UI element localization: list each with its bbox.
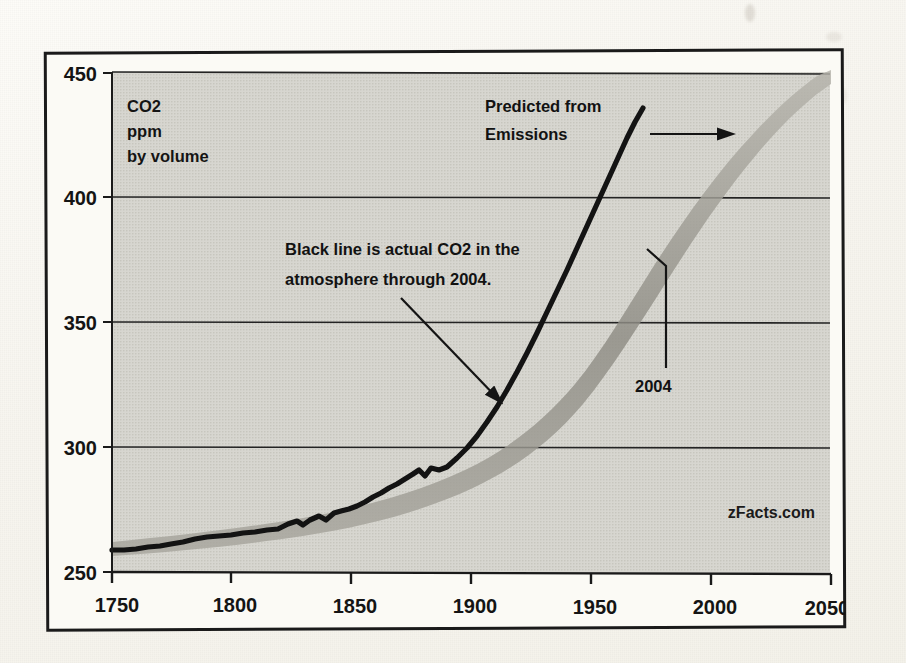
scan-smudge <box>745 4 755 22</box>
x-tick-label: 2050 <box>805 597 845 619</box>
x-tick-labels: 1750 1800 1850 1900 1950 2000 2050 <box>95 594 845 619</box>
y-tick-label: 400 <box>64 187 97 209</box>
x-tick-label: 1800 <box>213 594 258 616</box>
co2-chart-figure: 450 400 350 300 250 1750 1800 1850 1900 … <box>45 50 845 630</box>
axis-title-line: ppm <box>127 122 162 140</box>
chart-canvas: 450 400 350 300 250 1750 1800 1850 1900 … <box>45 50 845 630</box>
y-tick-label: 350 <box>64 312 97 334</box>
x-tick-label: 1900 <box>453 595 498 617</box>
x-tick-label: 2000 <box>693 596 738 618</box>
y-axis <box>103 72 112 573</box>
annotation-line: Black line is actual CO2 in the <box>285 240 520 258</box>
x-tick-label: 1750 <box>95 594 140 616</box>
y-tick-label: 300 <box>64 437 97 459</box>
x-tick-label: 1850 <box>333 595 378 617</box>
axis-title-line: by volume <box>127 147 209 165</box>
x-tick-label: 1950 <box>573 596 618 618</box>
axis-title-line: CO2 <box>127 97 161 115</box>
annotation-line: Emissions <box>485 125 568 143</box>
watermark-zfacts: zFacts.com <box>728 504 815 521</box>
annotation-line: Predicted from <box>485 97 601 115</box>
annotation-line: 2004 <box>635 377 673 395</box>
annotation-line: atmosphere through 2004. <box>285 270 491 288</box>
y-tick-labels: 450 400 350 300 250 <box>64 63 97 584</box>
y-tick-label: 450 <box>64 63 97 85</box>
y-tick-label: 250 <box>64 562 97 584</box>
x-axis <box>112 572 831 585</box>
scan-smudge-2 <box>826 32 842 42</box>
